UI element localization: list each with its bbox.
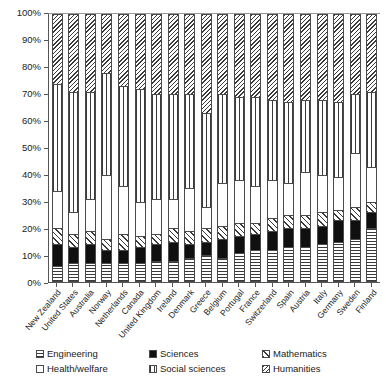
bar-segment bbox=[267, 180, 278, 218]
bar-segment bbox=[317, 212, 328, 225]
bar-segment bbox=[267, 100, 278, 180]
bar-segment bbox=[217, 183, 228, 226]
bar-segment bbox=[283, 215, 294, 228]
legend-item[interactable]: Mathematics bbox=[262, 349, 366, 359]
bar-segment bbox=[300, 172, 311, 215]
y-axis-tick-label: 70% bbox=[22, 89, 41, 99]
bar-segment bbox=[250, 223, 261, 234]
bar-segment bbox=[85, 231, 96, 244]
bar-segment bbox=[85, 14, 96, 92]
bar-segment bbox=[267, 231, 278, 250]
bar-column bbox=[184, 14, 195, 282]
bar-column bbox=[300, 14, 311, 282]
y-axis-tick-label: 0% bbox=[27, 278, 41, 288]
bar-segment bbox=[234, 223, 245, 236]
bar-column bbox=[85, 14, 96, 282]
bar-segment bbox=[250, 250, 261, 282]
bar-segment bbox=[101, 175, 112, 239]
bar-column bbox=[234, 14, 245, 282]
bar-segment bbox=[250, 186, 261, 224]
legend-swatch-icon bbox=[36, 365, 44, 373]
bar-segment bbox=[101, 14, 112, 73]
bar-segment bbox=[101, 263, 112, 282]
y-axis-tick-label: 80% bbox=[22, 62, 41, 72]
bar-segment bbox=[135, 202, 146, 237]
bar-segment bbox=[217, 239, 228, 258]
bar-segment bbox=[201, 113, 212, 207]
legend-item[interactable]: Humanities bbox=[262, 364, 366, 374]
bar-segment bbox=[234, 97, 245, 180]
bar-segment bbox=[85, 263, 96, 282]
bar-segment bbox=[333, 177, 344, 209]
bar-segment bbox=[250, 14, 261, 97]
bar-segment bbox=[283, 102, 294, 182]
bar-segment bbox=[234, 253, 245, 282]
bar-segment bbox=[201, 207, 212, 228]
bar-segment bbox=[366, 212, 377, 228]
bar-segment bbox=[350, 207, 361, 220]
bar-segment bbox=[350, 153, 361, 207]
bar-column bbox=[366, 14, 377, 282]
bar-segment bbox=[118, 234, 129, 250]
bar-segment bbox=[201, 242, 212, 255]
bar-segment bbox=[250, 234, 261, 250]
legend-item[interactable]: Engineering bbox=[36, 349, 149, 359]
bar-column bbox=[168, 14, 179, 282]
y-axis: 100%90%80%70%60%50%40%30%20%10%0% bbox=[0, 0, 48, 296]
y-axis-tick-label: 10% bbox=[22, 251, 41, 261]
y-axis-tick-label: 90% bbox=[22, 35, 41, 45]
bar-segment bbox=[333, 102, 344, 177]
y-axis-tick-label: 100% bbox=[17, 8, 41, 18]
bar-segment bbox=[283, 14, 294, 102]
legend-item[interactable]: Social sciences bbox=[149, 364, 262, 374]
legend-swatch-icon bbox=[36, 350, 44, 358]
legend-swatch-icon bbox=[262, 350, 270, 358]
bar-segment bbox=[201, 255, 212, 282]
y-axis-tick-label: 20% bbox=[22, 224, 41, 234]
bar-segment bbox=[151, 94, 162, 199]
bar-segment bbox=[135, 263, 146, 282]
bar-segment bbox=[267, 14, 278, 100]
bar-segment bbox=[317, 100, 328, 175]
y-axis-tick-label: 30% bbox=[22, 197, 41, 207]
bar-segment bbox=[68, 212, 79, 233]
y-axis-tick-label: 50% bbox=[22, 143, 41, 153]
legend-item[interactable]: Health/welfare bbox=[36, 364, 149, 374]
x-axis-label-slot: Spain bbox=[283, 286, 294, 344]
bar-segment bbox=[184, 94, 195, 188]
bar-segment bbox=[151, 244, 162, 260]
legend-label: Health/welfare bbox=[47, 364, 108, 374]
legend-item[interactable]: Sciences bbox=[149, 349, 262, 359]
x-axis-label-slot: Sweden bbox=[349, 286, 360, 344]
bar-segment bbox=[201, 228, 212, 241]
bar-segment bbox=[68, 14, 79, 92]
x-axis-label-slot: United Kingdom bbox=[150, 286, 161, 344]
bar-segment bbox=[101, 73, 112, 175]
bar-segment bbox=[300, 14, 311, 100]
y-axis-tick-label: 60% bbox=[22, 116, 41, 126]
bar-segment bbox=[184, 231, 195, 244]
legend-label: Sciences bbox=[160, 349, 199, 359]
legend-label: Social sciences bbox=[160, 364, 225, 374]
bar-segment bbox=[168, 94, 179, 199]
bar-segment bbox=[85, 199, 96, 231]
chart-legend: EngineeringSciencesMathematicsHealth/wel… bbox=[36, 346, 366, 376]
x-axis-label-slot: Finland bbox=[366, 286, 377, 344]
bar-segment bbox=[151, 261, 162, 282]
bar-segment bbox=[317, 226, 328, 245]
bar-segment bbox=[300, 228, 311, 247]
bar-segment bbox=[118, 263, 129, 282]
bar-segment bbox=[151, 14, 162, 94]
legend-swatch-icon bbox=[262, 365, 270, 373]
legend-swatch-icon bbox=[149, 350, 157, 358]
bar-segment bbox=[300, 215, 311, 228]
bar-segment bbox=[283, 228, 294, 247]
bar-segment bbox=[350, 220, 361, 239]
bar-segment bbox=[317, 175, 328, 213]
bar-segment bbox=[217, 258, 228, 282]
x-axis-label-slot: Austria bbox=[300, 286, 311, 344]
bar-column bbox=[201, 14, 212, 282]
bar-segment bbox=[101, 239, 112, 250]
bar-segment bbox=[333, 220, 344, 241]
bar-group bbox=[49, 14, 380, 282]
